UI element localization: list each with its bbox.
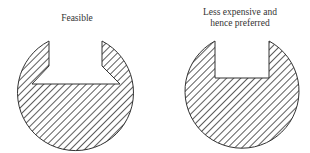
diagram-canvas xyxy=(0,0,310,153)
feasible-section xyxy=(17,41,133,151)
preferred-section xyxy=(185,41,299,148)
feasible-section-shape xyxy=(17,41,133,151)
preferred-section-shape xyxy=(185,41,299,148)
